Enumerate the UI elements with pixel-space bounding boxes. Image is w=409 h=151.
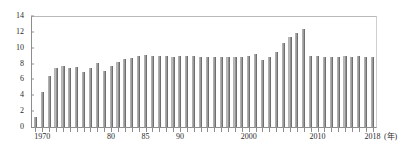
bar-slot [197,16,204,127]
bar [75,67,78,127]
bar-slot [170,16,177,127]
bar-slot [266,16,273,127]
bar-slot [355,16,362,127]
bar-slot [335,16,342,127]
y-axis-tick-label: 2 [20,107,24,115]
bar [89,68,92,127]
bar-slot [94,16,101,127]
bar-slot [328,16,335,127]
bar [226,57,229,127]
bar [343,56,346,127]
bar [220,57,223,127]
bar [144,55,147,127]
bar-slot [115,16,122,127]
bar-slot [53,16,60,127]
bar-slot [80,16,87,127]
bar [199,57,202,127]
bar-chart: 14121086420 1970808590200020102018(年) [0,0,409,151]
y-axis-tick-mark [31,16,34,17]
bar-slot [128,16,135,127]
y-axis-tick-label: 4 [20,91,24,99]
bar-slot [135,16,142,127]
bar-slot [211,16,218,127]
bar-slot [149,16,156,127]
bar [247,56,250,127]
bar-slot [259,16,266,127]
bar [178,56,181,127]
x-axis-tick-label: 2018 [365,132,381,142]
bar [295,33,298,127]
bar-slot [66,16,73,127]
bar-slot [314,16,321,127]
bar [275,52,278,127]
bar [110,66,113,127]
bar-slot [342,16,349,127]
bar-slot [252,16,259,127]
bar-slot [183,16,190,127]
bar-slot [39,16,46,127]
bar-slot [225,16,232,127]
bar [171,57,174,127]
bar [240,57,243,127]
y-axis-tick-label: 8 [20,60,24,68]
bar [254,54,257,127]
y-axis-tick-mark [31,95,34,96]
bar-slot [238,16,245,127]
bar [103,71,106,127]
y-axis-tick-label: 6 [20,75,24,83]
bar [192,56,195,127]
y-axis-tick-label: 12 [16,28,24,36]
bar-slot [60,16,67,127]
bar-slot [142,16,149,127]
bar [96,63,99,127]
bar [364,57,367,127]
bar-slot [163,16,170,127]
bar-slot [280,16,287,127]
x-axis-labels: 1970808590200020102018(年) [0,132,409,146]
bar-slot [73,16,80,127]
bar [323,57,326,127]
x-axis-tick-label: 2000 [241,132,257,142]
bar-slot [300,16,307,127]
bar [137,56,140,127]
y-axis-tick-mark [31,47,34,48]
bar-slot [204,16,211,127]
bar [213,57,216,127]
bar-slot [232,16,239,127]
bar [261,60,264,127]
x-axis-tick-label: 90 [176,132,184,142]
bar [268,57,271,127]
bar-slot [348,16,355,127]
y-axis-tick-mark [31,111,34,112]
bar-slot [321,16,328,127]
bar-slot [46,16,53,127]
bar [185,56,188,127]
x-axis-tick-label: 1970 [34,132,50,142]
bar [288,37,291,127]
bar [282,43,285,127]
bar [165,56,168,127]
bar-slot [87,16,94,127]
bar [41,92,44,127]
bar-slot [287,16,294,127]
bar [123,59,126,127]
x-axis-tick-label: 2010 [310,132,326,142]
bar [158,56,161,127]
bar [350,57,353,127]
bar [357,56,360,127]
bar-slot [156,16,163,127]
bar [54,68,57,127]
faint-header-text [16,0,136,7]
bar [309,56,312,127]
bar [233,57,236,127]
y-axis-labels: 14121086420 [0,16,28,128]
bar-slot [101,16,108,127]
bar [337,57,340,127]
y-axis-tick-label: 14 [16,12,24,20]
y-axis-tick-mark [31,31,34,32]
bar-slot [245,16,252,127]
bar [61,66,64,127]
bar [302,29,305,127]
bar-slot [218,16,225,127]
y-axis-tick-label: 0 [20,123,24,131]
